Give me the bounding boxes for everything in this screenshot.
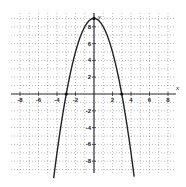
x-tick-label: -4	[54, 97, 60, 103]
x-tick-label: -6	[36, 97, 42, 103]
y-axis-label: y	[97, 13, 102, 21]
parabola-graph: -8-6-4-224688642-2-4-6-8 x y	[0, 0, 186, 187]
x-tick-label: -8	[17, 97, 23, 103]
y-tick-label: 2	[88, 74, 92, 80]
x-tick-label: 4	[129, 97, 133, 103]
x-tick-label: 6	[148, 97, 152, 103]
point-marker	[92, 17, 95, 20]
x-tick-label: 2	[111, 97, 115, 103]
y-tick-label: -2	[86, 108, 92, 114]
x-tick-label: 8	[166, 97, 170, 103]
axes	[11, 13, 176, 173]
x-axis-label: x	[175, 84, 180, 92]
y-tick-label: 6	[88, 41, 92, 47]
y-tick-label: 4	[88, 57, 92, 63]
y-tick-label: 8	[88, 24, 92, 30]
y-tick-label: -6	[86, 141, 92, 147]
y-tick-label: -4	[86, 125, 92, 131]
y-tick-label: -8	[86, 158, 92, 164]
point-marker	[65, 92, 68, 95]
x-tick-label: -2	[73, 97, 79, 103]
point-marker	[120, 92, 123, 95]
